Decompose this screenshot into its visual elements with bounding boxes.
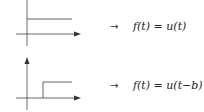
step-diagrams (0, 0, 204, 112)
x-axis-arrowhead (74, 32, 81, 37)
equation-unit-step: f(t) = u(t) (133, 20, 186, 33)
x-axis-arrowhead (74, 96, 81, 101)
y-axis-arrowhead (25, 57, 30, 64)
unit-step-plot (16, 0, 81, 46)
maps-to-arrow-icon: → (110, 21, 118, 32)
maps-to-arrow-icon: → (110, 80, 118, 91)
equation-shifted-step: f(t) = u(t−b) (133, 79, 203, 92)
shifted-step-plot (16, 57, 81, 110)
